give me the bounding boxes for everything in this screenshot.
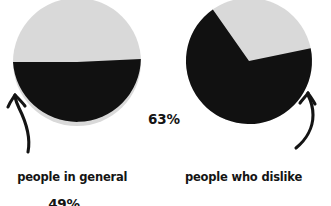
comic-canvas: people in general 49% 63% people who dis… [0,0,331,206]
curved-arrow-right [296,93,315,148]
left-pie-group [13,0,141,126]
right-pie-caption-line-1: people who dislike [156,172,331,184]
right-pie-group [186,0,312,124]
curved-arrow-left [8,95,29,152]
right-pie-percent-label: 63% [148,111,180,127]
right-pie-caption: people who dislike extra-chunky pasta sa… [156,148,331,206]
left-pie-caption-line-1: people in general [17,170,127,184]
left-pie-caption: people in general 49% [2,160,142,206]
left-pie-percent-label: 49% [2,197,142,206]
left-pie-slice-highlighted [13,59,141,122]
